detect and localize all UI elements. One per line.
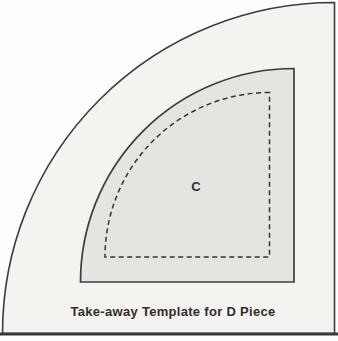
figure-caption: Take-away Template for D Piece bbox=[70, 304, 275, 319]
c-piece-label: C bbox=[191, 179, 201, 194]
template-diagram-svg: C Take-away Template for D Piece bbox=[0, 0, 338, 341]
quilt-template-figure: C Take-away Template for D Piece bbox=[0, 0, 338, 341]
